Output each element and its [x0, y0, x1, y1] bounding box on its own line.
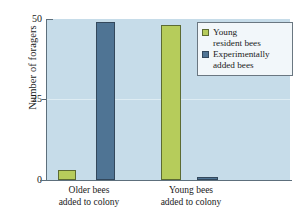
bar-older-young-resident: [58, 170, 76, 180]
y-tick-label-50: 50: [20, 13, 42, 24]
plot-area: Young resident bees Experimentally added…: [46, 19, 290, 180]
legend-label-young-resident: Young resident bees: [213, 27, 261, 48]
legend-swatch-young-resident: [202, 29, 209, 36]
legend-label-line-1: Experimentally: [213, 49, 270, 59]
legend-label-experimentally-added: Experimentally added bees: [213, 49, 270, 70]
legend-label-line-1: Young: [213, 27, 237, 37]
x-tick-label-young-bees: Young bees added to colony: [146, 185, 236, 208]
x-tick-label-line-2: added to colony: [161, 197, 222, 207]
legend-item-experimentally-added-bees: Experimentally added bees: [202, 49, 288, 70]
bar-chart-figure: Number of foragers 50 25 0 Young residen…: [0, 0, 307, 216]
y-axis-top-tick: [46, 19, 53, 20]
x-axis-line: [40, 180, 292, 181]
x-tick-label-line-1: Young bees: [169, 185, 213, 195]
y-tick-label-0: 0: [20, 174, 42, 185]
x-tick-label-line-1: Older bees: [69, 185, 110, 195]
bar-older-experimentally-added: [96, 22, 115, 180]
legend: Young resident bees Experimentally added…: [197, 22, 293, 76]
y-axis-ticks: 50 25 0: [18, 0, 42, 216]
x-tick-label-older-bees: Older bees added to colony: [44, 185, 134, 208]
legend-swatch-experimentally-added: [202, 51, 209, 58]
x-tick-label-line-2: added to colony: [59, 197, 120, 207]
legend-label-line-2: added bees: [213, 60, 254, 70]
legend-item-young-resident-bees: Young resident bees: [202, 27, 288, 48]
legend-label-line-2: resident bees: [213, 38, 261, 48]
bar-young-young-resident: [161, 25, 181, 180]
y-tick-label-25: 25: [20, 93, 42, 104]
